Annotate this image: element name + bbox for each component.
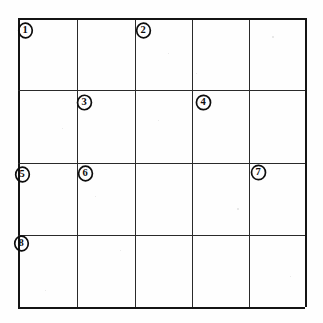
marker-label: 1 (22, 25, 27, 36)
marker-label: 2 (140, 25, 145, 36)
marker-label: 5 (19, 169, 24, 180)
marker-label: 3 (81, 97, 86, 108)
marker-8: 8 (13, 235, 30, 252)
marker-5: 5 (14, 166, 31, 183)
marker-2: 2 (135, 22, 152, 39)
marker-label: 6 (82, 168, 87, 179)
marker-3: 3 (76, 94, 93, 111)
marker-label: 8 (18, 238, 23, 249)
marker-6: 6 (77, 165, 94, 182)
marker-7: 7 (250, 164, 267, 181)
worksheet-sheet: 12345678 (0, 0, 323, 323)
marker-label: 4 (200, 97, 205, 108)
marker-layer: 12345678 (0, 0, 323, 323)
marker-label: 7 (255, 167, 260, 178)
marker-1: 1 (17, 22, 34, 39)
marker-4: 4 (195, 94, 212, 111)
